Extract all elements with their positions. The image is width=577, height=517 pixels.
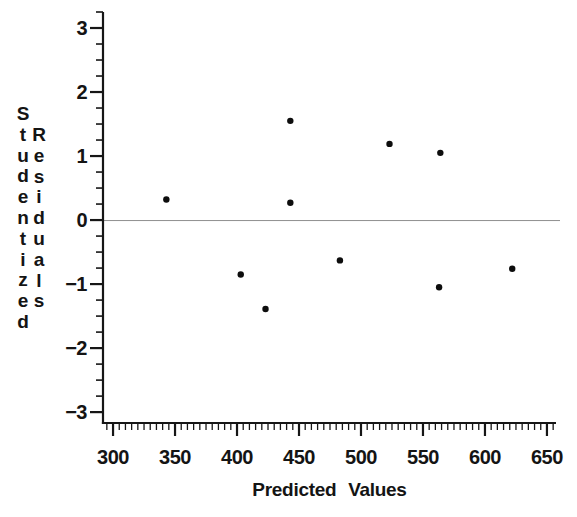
data-point	[287, 200, 293, 206]
residual-scatter-plot-figure: S t u d e n t i z e d R e s i d u a l s …	[0, 0, 577, 517]
x-axis-tick-label: 400	[221, 446, 253, 468]
y-axis-tick-label: 3	[76, 17, 87, 39]
x-axis-tick-label: 450	[283, 446, 315, 468]
y-axis-tick-label: −2	[65, 337, 87, 359]
data-point	[262, 306, 268, 312]
data-point	[337, 257, 343, 263]
y-axis-tick-label: 2	[76, 81, 87, 103]
data-point	[436, 284, 442, 290]
data-point	[386, 141, 392, 147]
plot-area: 3003504004505005506006503210−1−2−3	[0, 0, 577, 517]
data-point	[238, 271, 244, 277]
y-axis-tick-label: 1	[76, 145, 87, 167]
x-axis-tick-label: 600	[469, 446, 501, 468]
y-axis-tick-label: −1	[65, 273, 87, 295]
data-point	[509, 266, 515, 272]
y-axis-tick-label: −3	[65, 401, 87, 423]
x-axis-tick-label: 350	[159, 446, 191, 468]
x-axis-tick-label: 650	[531, 446, 563, 468]
data-point	[437, 150, 443, 156]
x-axis-title: Predicted Values	[103, 479, 556, 501]
y-axis-tick-label: 0	[76, 209, 87, 231]
x-axis-tick-label: 550	[407, 446, 439, 468]
data-point	[163, 196, 169, 202]
x-axis-tick-label: 300	[97, 446, 129, 468]
x-axis-tick-label: 500	[345, 446, 377, 468]
data-point	[287, 118, 293, 124]
